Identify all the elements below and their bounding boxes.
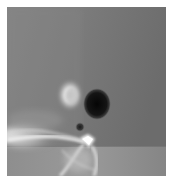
field-map-image	[7, 7, 166, 176]
field-map-panel	[7, 7, 166, 176]
small-dark-dot	[75, 122, 85, 132]
dark-blob	[83, 88, 111, 120]
